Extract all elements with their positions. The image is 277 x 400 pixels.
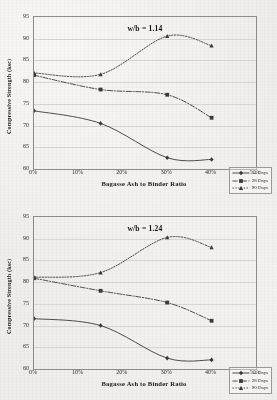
x-tick-label: 40%: [205, 369, 216, 375]
legend-key-icon: [232, 378, 250, 384]
x-tick-label: 10%: [72, 369, 83, 375]
legend-item: 14 Days: [232, 370, 268, 376]
y-tick-label: 65: [23, 143, 29, 149]
legend-label: 90 Days: [252, 385, 268, 391]
y-tick-label: 75: [23, 300, 29, 306]
x-tick-label: 0%: [29, 169, 37, 175]
x-tick-label: 10%: [72, 169, 83, 175]
x-tick-label: 30%: [161, 169, 172, 175]
x-axis-label: Bagasse Ash to Binder Ratio: [33, 180, 255, 187]
y-tick-label: 70: [23, 122, 29, 128]
y-tick-label: 75: [23, 100, 29, 106]
legend-key-icon: [232, 185, 250, 191]
y-axis-ticks: 6065707580859095: [15, 16, 31, 168]
chart-panel-wb-124: Compressive Strength (ksc) 6065707580859…: [0, 202, 277, 400]
series-layer: [34, 217, 256, 369]
x-tick-label: 30%: [161, 369, 172, 375]
scanned-figure-page: Compressive Strength (ksc) 6065707580859…: [0, 0, 277, 400]
chart-panel-wb-114: Compressive Strength (ksc) 6065707580859…: [0, 2, 277, 200]
y-axis-label: Compressive Strength (ksc): [1, 236, 15, 356]
legend-key-icon: [232, 370, 250, 376]
legend-key-icon: [232, 385, 250, 391]
x-tick-label: 0%: [29, 369, 37, 375]
legend-label: 14 Days: [252, 370, 268, 376]
legend-key-icon: [232, 170, 250, 176]
series-layer: [34, 17, 256, 169]
x-axis-label: Bagasse Ash to Binder Ratio: [33, 380, 255, 387]
y-tick-label: 80: [23, 278, 29, 284]
legend: 14 Days28 Days90 Days: [229, 167, 272, 194]
y-axis-label: Compressive Strength (ksc): [1, 36, 15, 156]
y-tick-label: 90: [23, 235, 29, 241]
legend-label: 90 Days: [252, 185, 268, 191]
plot-area: w/b = 1.24: [33, 216, 257, 370]
legend-item: 28 Days: [232, 178, 268, 184]
legend-item: 14 Days: [232, 170, 268, 176]
y-tick-label: 90: [23, 35, 29, 41]
x-tick-label: 20%: [116, 169, 127, 175]
y-tick-label: 95: [23, 213, 29, 219]
y-tick-label: 95: [23, 13, 29, 19]
legend-item: 90 Days: [232, 185, 268, 191]
legend-label: 14 Days: [252, 170, 268, 176]
y-tick-label: 85: [23, 256, 29, 262]
plot-area: w/b = 1.14: [33, 16, 257, 170]
y-tick-label: 85: [23, 56, 29, 62]
legend-label: 28 Days: [252, 378, 268, 384]
legend: 14 Days28 Days90 Days: [229, 367, 272, 394]
x-tick-label: 20%: [116, 369, 127, 375]
legend-item: 28 Days: [232, 378, 268, 384]
y-tick-label: 80: [23, 78, 29, 84]
y-tick-label: 70: [23, 322, 29, 328]
y-axis-ticks: 6065707580859095: [15, 216, 31, 368]
legend-item: 90 Days: [232, 385, 268, 391]
y-tick-label: 65: [23, 343, 29, 349]
x-tick-label: 40%: [205, 169, 216, 175]
legend-label: 28 Days: [252, 178, 268, 184]
legend-key-icon: [232, 178, 250, 184]
